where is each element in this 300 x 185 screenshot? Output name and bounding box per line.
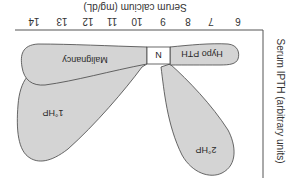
- x-tick: 10: [131, 16, 143, 27]
- x-tick: 13: [56, 16, 68, 27]
- x-axis-title: Serum calcium (mg/dL): [83, 2, 186, 13]
- label-hypo-pth: Hypo PTH: [181, 49, 223, 59]
- y-axis-title: Serum IPTH (arbitrary units): [275, 38, 286, 163]
- x-tick: 14: [28, 16, 40, 27]
- label-n: N: [155, 50, 162, 60]
- region-secondary-hp: [161, 64, 234, 175]
- x-tick: 9: [160, 16, 166, 27]
- x-tick: 7: [208, 16, 214, 27]
- x-tick: 11: [106, 16, 117, 27]
- label-primary-hp: 1°HP: [42, 108, 63, 118]
- x-tick-labels: 6 7 8 9 10 11 12 13 14: [28, 16, 241, 27]
- x-tick: 12: [82, 16, 94, 27]
- label-malignancy: Malignancy: [62, 55, 108, 65]
- chart-svg: N Hypo PTH Malignancy 1°HP 2°HP 6 7 8 9 …: [0, 0, 300, 185]
- x-tick: 8: [185, 16, 191, 27]
- calcium-ipth-diagram: N Hypo PTH Malignancy 1°HP 2°HP 6 7 8 9 …: [0, 0, 300, 185]
- label-secondary-hp: 2°HP: [195, 145, 216, 155]
- x-tick: 6: [235, 16, 241, 27]
